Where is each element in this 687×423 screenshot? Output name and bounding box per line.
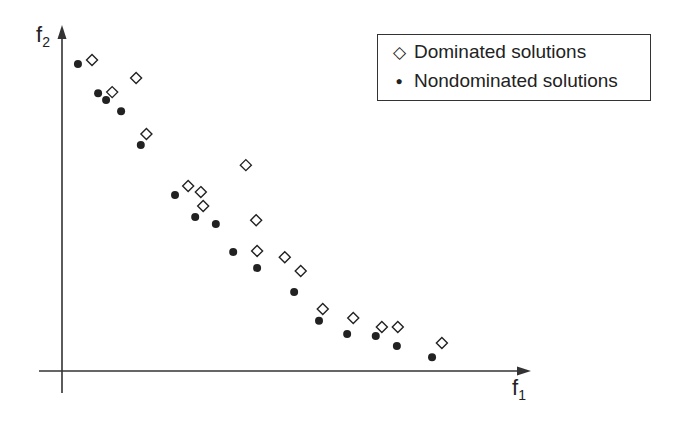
x-axis-label-sub: 1: [518, 387, 526, 403]
nondominated-point: [117, 107, 125, 115]
nondominated-point: [428, 353, 436, 361]
legend-label-dominated: Dominated solutions: [414, 41, 586, 63]
legend-item-nondominated: ● Nondominated solutions: [390, 70, 618, 92]
dominated-point: [295, 266, 306, 277]
dominated-point: [240, 160, 251, 171]
nondominated-point: [372, 332, 380, 340]
legend-item-dominated: ◇ Dominated solutions: [390, 41, 586, 63]
y-axis-label: f2: [36, 22, 50, 50]
dominated-point: [279, 252, 290, 263]
dominated-point: [392, 322, 403, 333]
dominated-point: [252, 245, 263, 256]
dominated-point: [87, 54, 98, 65]
legend-label-nondominated: Nondominated solutions: [414, 70, 618, 92]
dominated-point: [183, 180, 194, 191]
x-axis-label: f1: [512, 375, 526, 403]
y-axis-arrow-icon: [58, 25, 67, 39]
legend: ◇ Dominated solutions ● Nondominated sol…: [377, 34, 651, 101]
nondominated-point: [229, 248, 237, 256]
nondominated-point: [393, 342, 401, 350]
nondominated-point: [253, 264, 261, 272]
nondominated-point: [212, 220, 220, 228]
nondominated-point: [343, 330, 351, 338]
nondominated-point: [94, 89, 102, 97]
nondominated-point: [102, 96, 110, 104]
dominated-point: [348, 313, 359, 324]
nondominated-point: [315, 317, 323, 325]
nondominated-point: [74, 60, 82, 68]
nondominated-point: [290, 288, 298, 296]
dominated-point: [141, 128, 152, 139]
dominated-point: [107, 87, 118, 98]
dominated-point: [436, 337, 447, 348]
y-axis-label-sub: 2: [42, 34, 50, 50]
dominated-point: [195, 187, 206, 198]
open-diamond-icon: ◇: [390, 42, 408, 63]
nondominated-point: [171, 191, 179, 199]
dominated-point: [376, 322, 387, 333]
dominated-point: [131, 72, 142, 83]
dominated-point: [317, 304, 328, 315]
nondominated-point: [137, 141, 145, 149]
dominated-point: [251, 215, 262, 226]
filled-circle-icon: ●: [390, 74, 408, 88]
nondominated-point: [191, 213, 199, 221]
dominated-point: [198, 200, 209, 211]
nondominated-series: [74, 60, 436, 361]
